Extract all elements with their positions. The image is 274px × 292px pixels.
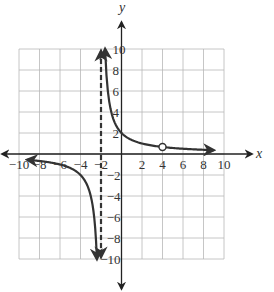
x-tick-label: 6 — [180, 157, 187, 172]
x-tick-label: −10 — [9, 157, 29, 172]
x-tick-label: 4 — [159, 157, 166, 172]
y-tick-label: −2 — [107, 168, 121, 183]
x-tick-label: 2 — [139, 157, 146, 172]
x-tick-label: −8 — [33, 157, 47, 172]
y-tick-label: 6 — [113, 84, 120, 99]
x-tick-label: 10 — [218, 157, 231, 172]
y-tick-label: −4 — [107, 189, 121, 204]
x-axis-label: x — [255, 146, 263, 161]
x-tick-label: 8 — [200, 157, 207, 172]
rational-function-graph: −10−8−6−4−2246810−10−8−6−4−2246810 x y — [0, 0, 274, 292]
y-tick-label: −8 — [107, 231, 121, 246]
y-tick-label: −6 — [107, 210, 121, 225]
y-tick-label: −10 — [100, 252, 120, 267]
hole-point — [159, 143, 166, 150]
y-tick-label: 8 — [113, 63, 120, 78]
y-axis-label: y — [117, 0, 126, 15]
y-tick-label: 10 — [113, 42, 126, 57]
